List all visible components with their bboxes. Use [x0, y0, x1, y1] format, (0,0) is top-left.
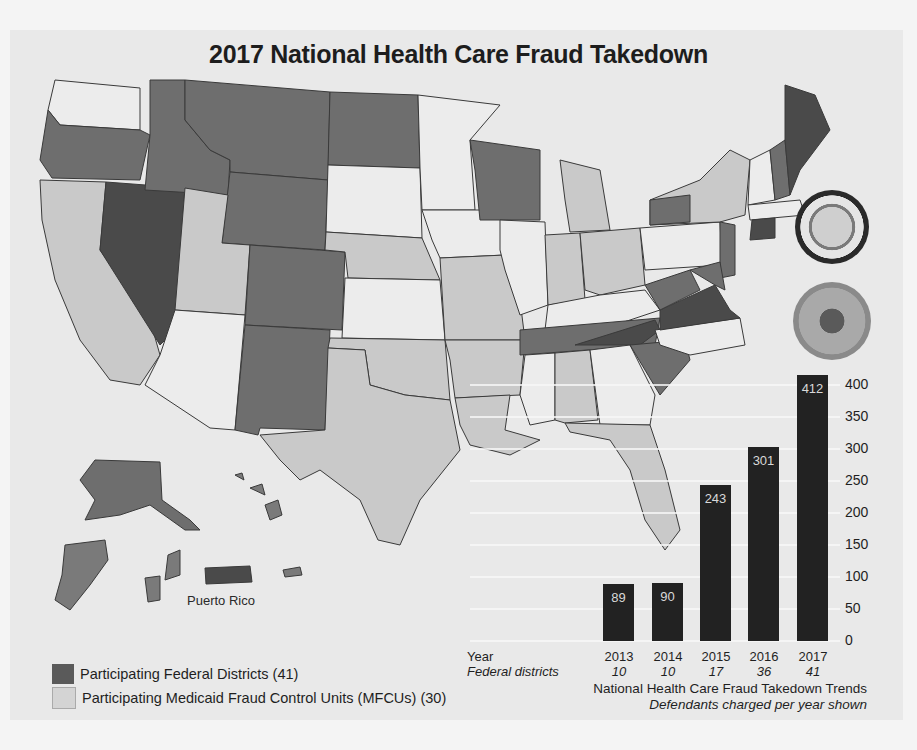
- gridline: [470, 512, 840, 514]
- gridline: [470, 576, 840, 578]
- y-tick: 400: [845, 376, 868, 392]
- x-label-2016: 2016: [739, 649, 789, 664]
- y-tick: 150: [845, 536, 868, 552]
- legend-swatch-light: [52, 687, 76, 709]
- gridline: [470, 448, 840, 450]
- x-label-2015: 2015: [691, 649, 741, 664]
- y-tick: 250: [845, 472, 868, 488]
- districts-2016: 36: [739, 664, 789, 679]
- chart-caption-subtitle: Defendants charged per year shown: [649, 697, 867, 712]
- x-label-2017: 2017: [788, 649, 838, 664]
- bar-2014: 90: [652, 583, 683, 641]
- bar-2015: 243: [700, 485, 731, 641]
- districts-2013: 10: [594, 664, 644, 679]
- bar-2016: 301: [748, 447, 779, 641]
- gridline: [470, 416, 840, 418]
- bar-2017: 412: [797, 375, 828, 641]
- bar-value: 89: [603, 590, 634, 605]
- y-tick: 350: [845, 408, 868, 424]
- bar-value: 301: [748, 453, 779, 468]
- districts-2015: 17: [691, 664, 741, 679]
- legend-label: Participating Federal Districts (41): [80, 666, 298, 682]
- gridline: [470, 384, 840, 386]
- districts-2014: 10: [643, 664, 693, 679]
- legend-item-federal: Participating Federal Districts (41): [52, 664, 298, 684]
- gridline: [470, 544, 840, 546]
- bar-value: 412: [797, 381, 828, 396]
- legend-item-mfcu: Participating Medicaid Fraud Control Uni…: [52, 687, 446, 709]
- y-tick: 100: [845, 568, 868, 584]
- districts-row-label: Federal districts: [467, 664, 559, 679]
- y-tick: 200: [845, 504, 868, 520]
- year-row-label: Year: [467, 649, 493, 664]
- legend-swatch-dark: [52, 664, 74, 684]
- chart-caption-title: National Health Care Fraud Takedown Tren…: [593, 681, 867, 696]
- legend-label: Participating Medicaid Fraud Control Uni…: [82, 690, 446, 706]
- bar-value: 90: [652, 589, 683, 604]
- gridline: [470, 480, 840, 482]
- x-label-2013: 2013: [594, 649, 644, 664]
- x-label-2014: 2014: [643, 649, 693, 664]
- y-tick: 300: [845, 440, 868, 456]
- trend-bar-chart: 89 90 243 301 412 0 50 100 150 200 250 3…: [0, 0, 917, 750]
- bar-value: 243: [700, 491, 731, 506]
- y-tick: 0: [845, 632, 853, 648]
- y-tick: 50: [845, 600, 861, 616]
- districts-2017: 41: [788, 664, 838, 679]
- bar-2013: 89: [603, 584, 634, 641]
